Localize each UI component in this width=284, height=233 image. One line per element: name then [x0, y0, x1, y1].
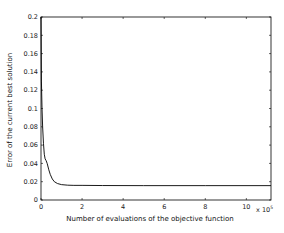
plot-frame	[41, 17, 271, 200]
y-axis-label: Error of the current best solution	[6, 53, 14, 168]
x-tick-label: 10	[242, 203, 250, 211]
y-tick-label: 0.08	[24, 123, 38, 131]
x-axis-label: Number of evaluations of the objective f…	[66, 215, 233, 223]
x-multiplier-base: x 10	[256, 206, 270, 214]
y-tick-label: 0.14	[24, 68, 38, 76]
y-tick-label: 0.2	[28, 13, 38, 21]
x-tick-label: 0	[39, 203, 43, 211]
y-tick-label: 0	[34, 196, 38, 204]
x-multiplier-exponent: 5	[270, 205, 273, 210]
y-tick-label: 0.06	[24, 141, 38, 149]
plot-area: 00.020.040.060.080.10.120.140.160.180.2 …	[24, 13, 271, 211]
y-tick-label: 0.1	[28, 105, 38, 113]
y-tick-label: 0.04	[24, 160, 38, 168]
error-curve	[41, 17, 271, 186]
x-tick-label: 8	[203, 203, 207, 211]
x-tick-label: 4	[121, 203, 125, 211]
y-tick-label: 0.16	[24, 50, 38, 58]
y-axis-ticks: 00.020.040.060.080.10.120.140.160.180.2	[24, 13, 271, 204]
chart: 00.020.040.060.080.10.120.140.160.180.2 …	[0, 0, 284, 233]
x-axis-ticks: 0246810	[39, 17, 251, 211]
x-tick-label: 6	[162, 203, 166, 211]
y-tick-label: 0.12	[24, 86, 38, 94]
y-tick-label: 0.18	[24, 32, 38, 40]
y-tick-label: 0.02	[24, 178, 38, 186]
x-multiplier-label: x 105	[256, 205, 273, 214]
x-tick-label: 2	[80, 203, 84, 211]
